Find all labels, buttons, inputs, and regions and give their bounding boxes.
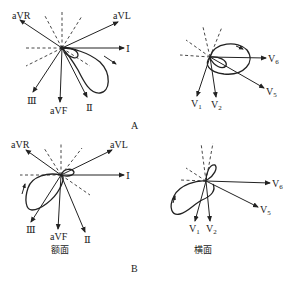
lead-label-avr: aVR [11, 139, 30, 150]
lead-label-v5: V5 [266, 86, 277, 99]
lead-label-avl: aVL [113, 10, 131, 21]
caption-horizontal-plane: 横面 [194, 244, 212, 255]
lead-label-i: Ⅰ [126, 43, 130, 54]
lead-label-i: Ⅰ [126, 170, 130, 181]
lead-axis-v2 [206, 181, 210, 221]
panel-b-horizontal-plane: V6 V5 V1 V2 横面 [171, 143, 283, 255]
lead-label-avr: aVR [12, 10, 31, 21]
rotation-arrow [22, 184, 25, 194]
lead-label-avl: aVL [110, 139, 128, 150]
lead-axis-ii [62, 48, 87, 97]
rotation-arrow [104, 56, 116, 64]
qrs-loop [26, 174, 63, 210]
lead-label-v1: V1 [191, 98, 202, 111]
panel-label-a: A [131, 120, 139, 131]
lead-axis-iii [31, 175, 61, 222]
t-loop [206, 165, 216, 181]
lead-label-ii: Ⅱ [86, 102, 93, 113]
qrs-loop [62, 48, 108, 93]
lead-label-v6: V6 [268, 53, 279, 66]
panel-a-horizontal-plane: V6 V5 V1 V2 [180, 27, 279, 112]
lead-axis-v1 [197, 57, 210, 96]
lead-axis-avf [58, 175, 61, 229]
lead-label-v2: V2 [206, 223, 217, 236]
lead-label-ii: Ⅱ [84, 234, 91, 245]
panel-a-frontal-plane: aVR aVL Ⅰ Ⅲ aVF Ⅱ [12, 10, 131, 116]
lead-label-v6: V6 [272, 178, 283, 191]
lead-label-v2: V2 [211, 99, 222, 112]
lead-axis-avf [60, 48, 62, 102]
lead-axis-iii [33, 48, 62, 92]
lead-label-avf: aVF [50, 105, 68, 116]
caption-frontal-plane: 额面 [51, 244, 69, 255]
lead-axis-avr [26, 150, 61, 175]
panel-b-frontal-plane: aVR aVL Ⅰ Ⅲ aVF Ⅱ 额面 [11, 139, 130, 255]
lead-axis-ii [61, 175, 85, 232]
lead-label-v5: V5 [260, 204, 271, 217]
panel-label-b: B [131, 263, 138, 274]
vectorcardiogram-diagram: aVR aVL Ⅰ Ⅲ aVF Ⅱ V6 V5 V1 V2 A [0, 0, 292, 281]
lead-axis-v6 [206, 181, 270, 183]
lead-label-avf: aVF [50, 231, 68, 242]
lead-label-v1: V1 [189, 223, 200, 236]
qrs-loop [171, 181, 214, 214]
lead-axis-avl [62, 22, 118, 48]
lead-axis-avl [61, 150, 112, 175]
lead-axis-avr [20, 20, 62, 48]
lead-label-iii: Ⅲ [26, 224, 36, 235]
lead-label-iii: Ⅲ [27, 95, 37, 106]
